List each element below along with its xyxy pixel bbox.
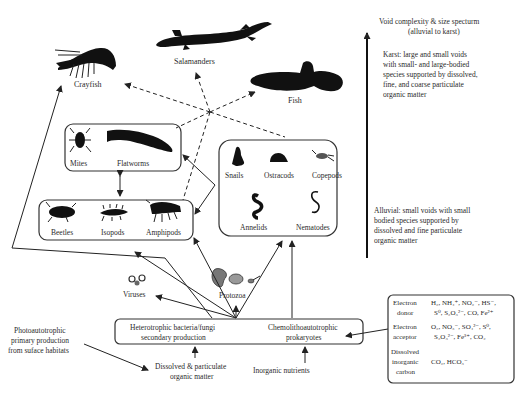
svg-text:bodied species supported by: bodied species supported by bbox=[374, 216, 459, 225]
svg-text:Electron: Electron bbox=[393, 299, 417, 307]
svg-text:species supported by dissolved: species supported by dissolved, bbox=[383, 70, 478, 79]
svg-text:organic matter: organic matter bbox=[383, 90, 427, 99]
photo-line3: from suface habitats bbox=[8, 346, 69, 355]
mites-label: Mites bbox=[70, 159, 87, 168]
svg-text:organic matter: organic matter bbox=[374, 236, 418, 245]
mite-icon bbox=[69, 128, 91, 152]
arrow-photoautotrophic bbox=[84, 344, 148, 370]
svg-text:CO₂, HCO₃⁻: CO₂, HCO₃⁻ bbox=[431, 358, 468, 366]
arrow-snails-to-flatworms bbox=[183, 155, 215, 185]
viruses-group: Viruses bbox=[123, 275, 146, 299]
svg-text:with small- and large-bodied: with small- and large-bodied bbox=[383, 60, 470, 69]
dom-line2: organic matter bbox=[170, 372, 214, 381]
chemolithoautotrophic-line2: prokaryotes bbox=[286, 333, 321, 342]
spectrum-title-line2: (alluvial to karst) bbox=[408, 27, 460, 36]
protozoa-label: Protozoa bbox=[219, 291, 246, 300]
svg-text:Karst: large and small voids: Karst: large and small voids bbox=[383, 50, 467, 59]
copepods-label: Copepods bbox=[312, 171, 342, 180]
crayfish-icon bbox=[55, 48, 116, 78]
electron-donor-row: Electron donor H₂, NH₄⁺, NO₂⁻, HS⁻, S⁰, … bbox=[393, 299, 496, 317]
electron-acceptor-row: Electron acceptor O₂, NO₃⁻, SO₄²⁻, S⁰, S… bbox=[393, 323, 491, 341]
svg-text:fine, and coarse particulate: fine, and coarse particulate bbox=[383, 80, 464, 89]
svg-text:Dissolved: Dissolved bbox=[391, 348, 420, 356]
copepod-icon bbox=[312, 150, 334, 161]
chemolithoautotrophic-line1: Chemolithoautotrophic bbox=[268, 323, 338, 332]
crayfish-label: Crayfish bbox=[74, 80, 102, 89]
nematode-icon bbox=[312, 192, 319, 213]
svg-text:acceptor: acceptor bbox=[393, 333, 417, 341]
heterotrophic-line1: Heterotrophic bacteria/fungi bbox=[130, 323, 215, 332]
protozoa-icon bbox=[212, 269, 260, 287]
arrow-snails-to-amphipods bbox=[195, 185, 215, 214]
virus-icon bbox=[129, 275, 145, 286]
snail-icon bbox=[232, 147, 244, 166]
svg-text:Electron: Electron bbox=[393, 323, 417, 331]
karst-description: Karst: large and small voids with small-… bbox=[383, 50, 478, 99]
svg-text:O₂, NO₃⁻, SO₄²⁻, S⁰,: O₂, NO₃⁻, SO₄²⁻, S⁰, bbox=[431, 323, 491, 331]
food-web-diagram: Crayfish Salamanders Fish Mites F bbox=[0, 0, 522, 393]
amphipods-label: Amphipods bbox=[146, 228, 181, 237]
dom-line1: Dissolved & particulate bbox=[155, 362, 227, 371]
flatworms-label: Flatworms bbox=[117, 159, 149, 168]
svg-text:donor: donor bbox=[397, 309, 414, 317]
fish-label: Fish bbox=[288, 96, 302, 105]
production-box: Heterotrophic bacteria/fungi secondary p… bbox=[115, 319, 363, 344]
salamanders-label: Salamanders bbox=[174, 57, 215, 66]
snails-label: Snails bbox=[225, 171, 243, 180]
annelid-icon bbox=[254, 195, 262, 218]
svg-text:inorganic: inorganic bbox=[392, 358, 418, 366]
beetles-box: Beetles Isopods Amphipods bbox=[39, 200, 193, 240]
chemistry-table: Electron donor H₂, NH₄⁺, NO₂⁻, HS⁻, S⁰, … bbox=[388, 295, 514, 383]
salamanders-group: Salamanders bbox=[156, 22, 272, 66]
ostracods-label: Ostracods bbox=[264, 171, 294, 180]
isopod-icon bbox=[100, 204, 128, 221]
svg-text:S⁰, S₂O₃²⁻, CO, Fe²⁺: S⁰, S₂O₃²⁻, CO, Fe²⁺ bbox=[434, 309, 494, 317]
beetle-icon bbox=[46, 202, 76, 222]
svg-text:H₂, NH₄⁺, NO₂⁻, HS⁻,: H₂, NH₄⁺, NO₂⁻, HS⁻, bbox=[431, 299, 496, 307]
svg-text:S₂O₃²⁻, Fe³⁺, CO₂: S₂O₃²⁻, Fe³⁺, CO₂ bbox=[434, 333, 486, 341]
heterotrophic-line2: secondary production bbox=[141, 333, 206, 342]
arrow-chem-table bbox=[346, 329, 388, 336]
fish-icon bbox=[250, 61, 342, 91]
inorganic-nutrients: Inorganic nutrients bbox=[253, 366, 310, 375]
amphipod-icon bbox=[146, 200, 181, 222]
beetles-label: Beetles bbox=[51, 228, 73, 237]
spectrum-title-line1: Void complexity & size specturm bbox=[379, 17, 479, 26]
protozoa-group: Protozoa bbox=[212, 269, 260, 300]
ostracod-icon bbox=[270, 153, 288, 162]
nematodes-label: Nematodes bbox=[296, 223, 330, 232]
svg-text:carbon: carbon bbox=[396, 368, 416, 376]
photo-line2: primary production bbox=[11, 336, 69, 345]
alluvial-description: Alluvial: small voids with small bodied … bbox=[374, 206, 470, 245]
photo-line1: Photoautotrophic bbox=[14, 326, 66, 335]
svg-text:Alluvial: small voids with sma: Alluvial: small voids with small bbox=[374, 206, 470, 215]
dissolved-inorganic-carbon-row: Dissolved inorganic carbon CO₂, HCO₃⁻ bbox=[391, 348, 468, 376]
snails-box: Snails Ostracods Copepods Annelids Nemat… bbox=[219, 140, 342, 236]
flatworm-icon bbox=[107, 130, 172, 152]
salamander-icon bbox=[156, 22, 272, 50]
crayfish-group: Crayfish bbox=[55, 48, 116, 89]
svg-text:dissolved and fine particulate: dissolved and fine particulate bbox=[374, 226, 463, 235]
viruses-label: Viruses bbox=[123, 290, 146, 299]
isopods-label: Isopods bbox=[101, 228, 124, 237]
mites-flatworms-box: Mites Flatworms bbox=[65, 124, 181, 171]
fish-group: Fish bbox=[250, 61, 342, 105]
annelids-label: Annelids bbox=[240, 223, 267, 232]
